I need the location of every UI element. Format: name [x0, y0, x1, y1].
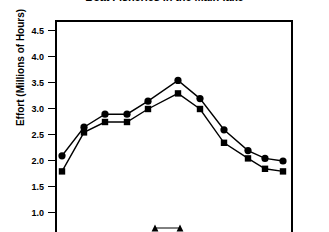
data-point-square — [59, 168, 65, 174]
data-point-circle — [196, 95, 203, 102]
data-point-circle — [174, 77, 181, 84]
data-point-square — [262, 166, 268, 172]
series-3 — [152, 225, 184, 232]
data-point-square — [245, 155, 251, 161]
data-point-circle — [261, 155, 268, 162]
data-point-square — [102, 119, 108, 125]
data-point-square — [221, 140, 227, 146]
data-point-circle — [220, 126, 227, 133]
data-point-square — [145, 106, 151, 112]
data-point-circle — [279, 157, 286, 164]
chart-data-layer — [0, 0, 329, 232]
chart-screenshot: Boat Fisheries in the Main-lake Effort (… — [0, 0, 329, 232]
data-point-square — [81, 129, 87, 135]
data-point-circle — [123, 111, 130, 118]
data-point-square — [280, 168, 286, 174]
data-point-circle — [144, 98, 151, 105]
data-point-circle — [58, 152, 65, 159]
series-2 — [59, 90, 286, 174]
series-1 — [58, 77, 286, 165]
data-point-square — [124, 119, 130, 125]
data-point-square — [175, 90, 181, 96]
data-point-circle — [244, 147, 251, 154]
data-point-circle — [101, 111, 108, 118]
data-point-square — [197, 106, 203, 112]
